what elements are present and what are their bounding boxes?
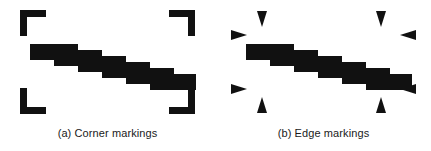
panel-b-artwork (216, 0, 431, 124)
panel-a-caption: (a) Corner markings (0, 126, 215, 140)
panel-corner-markings: (a) Corner markings (0, 0, 215, 151)
figure-container: (a) Corner markings (0, 0, 431, 151)
panel-b-caption: (b) Edge markings (216, 126, 431, 140)
panel-a-artwork (0, 0, 215, 124)
panel-edge-markings: (b) Edge markings (216, 0, 431, 151)
